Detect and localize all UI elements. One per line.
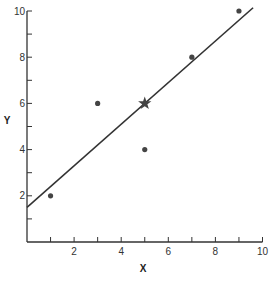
data-point-marker bbox=[48, 193, 53, 198]
data-point-marker bbox=[189, 55, 194, 60]
x-tick-label: 6 bbox=[166, 246, 172, 257]
x-tick-label: 2 bbox=[71, 246, 77, 257]
x-tick-label: 4 bbox=[118, 246, 124, 257]
regression-line bbox=[27, 8, 253, 208]
axes bbox=[27, 11, 263, 242]
y-tick-label: 4 bbox=[19, 144, 25, 155]
ticks: 246810246810 bbox=[14, 6, 269, 258]
scatter-chart: 246810246810 X Y bbox=[0, 0, 278, 283]
x-tick-label: 10 bbox=[257, 246, 269, 257]
y-tick-label: 6 bbox=[19, 98, 25, 109]
x-tick-label: 8 bbox=[213, 246, 219, 257]
y-tick-label: 10 bbox=[14, 6, 26, 17]
data-point-marker bbox=[95, 101, 100, 106]
data-point-marker bbox=[236, 8, 241, 13]
data-points bbox=[48, 8, 242, 198]
y-axis-title: Y bbox=[4, 115, 11, 126]
regression-line-path bbox=[27, 8, 253, 208]
x-axis-title: X bbox=[140, 263, 147, 274]
y-tick-label: 8 bbox=[19, 52, 25, 63]
data-point-marker bbox=[142, 147, 147, 152]
y-tick-label: 2 bbox=[19, 190, 25, 201]
